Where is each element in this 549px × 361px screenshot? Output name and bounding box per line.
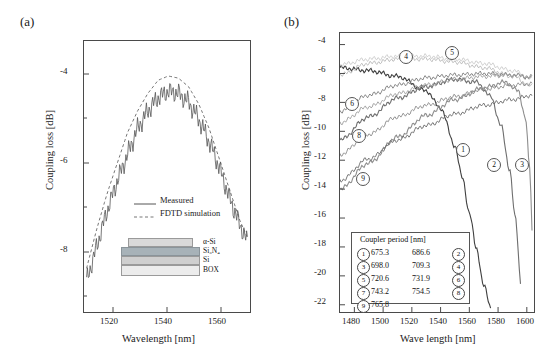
panel-b-curve-8 [340, 82, 532, 156]
legend-marker-9: 9 [357, 300, 370, 313]
panel-a-ytick-0: -4 [60, 66, 68, 76]
panel-a-xlabel: Wavelength [nm] [122, 333, 195, 344]
legend-label-measured: Measured [160, 195, 194, 205]
curve-marker-6: 6 [345, 97, 359, 111]
legend-value-2: 686.6 [412, 248, 430, 257]
panel-b-xlabel: Wave length [nm] [400, 333, 476, 344]
legend-label-fdtd: FDTD simulation [160, 208, 220, 218]
legend-value-5: 720.6 [371, 274, 389, 283]
panel-b-ylabel: Coupling loss [dB] [300, 55, 311, 245]
legend-marker-5: 5 [357, 274, 370, 287]
panel-b-ytick-5: -14 [314, 180, 326, 190]
curve-marker-1: 1 [456, 143, 470, 157]
figure-root: (a) Coupling loss [dB] -4 -6 -8 152 [0, 0, 549, 361]
curve-marker-8: 8 [352, 129, 366, 143]
legend-value-3: 698.0 [371, 261, 389, 270]
legend-value-4: 709.3 [412, 261, 430, 270]
legend-marker-2: 2 [452, 248, 465, 261]
stack-label-si: Si [203, 255, 209, 264]
stack-layer-a-si [128, 238, 193, 247]
legend-marker-8: 8 [452, 287, 465, 300]
panel-b-ytick-6: -16 [314, 209, 326, 219]
panel-b-ytick-4: -12 [314, 151, 326, 161]
legend-value-7: 743.2 [371, 287, 389, 296]
panel-a-xtick-0: 1520 [100, 316, 118, 326]
panel-b-ytick-8: -20 [314, 267, 326, 277]
stack-label-a-si: α-Si [203, 237, 216, 246]
panel-a-xtick-2: 1560 [208, 316, 226, 326]
panel-b-xtick-5: 1580 [487, 316, 505, 326]
stack-label-si3n4: Si₃N₄ [203, 246, 220, 255]
legend-value-9: 765.8 [371, 300, 389, 309]
panel-b-ytick-2: -8 [318, 93, 326, 103]
panel-b-ytick-7: -18 [314, 238, 326, 248]
curve-marker-3: 3 [515, 158, 529, 172]
legend-value-6: 731.9 [412, 274, 430, 283]
stack-label-box: BOX [203, 265, 219, 274]
legend-value-1: 675.3 [371, 248, 389, 257]
stack-layer-si3n4 [121, 247, 200, 256]
panel-a-xtick-1: 1540 [154, 316, 172, 326]
curve-marker-9: 9 [356, 172, 370, 186]
panel-a-ylabel: Coupling loss [dB] [44, 70, 55, 230]
panel-b-ytick-9: -22 [314, 296, 326, 306]
curve-marker-4: 4 [399, 50, 413, 64]
legend-marker-3: 3 [357, 261, 370, 274]
panel-b-ytick-3: -10 [314, 122, 326, 132]
panel-a-ytick-2: -8 [60, 244, 68, 254]
stack-layer-box [121, 265, 200, 276]
legend-marker-6: 6 [452, 274, 465, 287]
panel-b-xtick-1: 1500 [371, 316, 389, 326]
panel-b-xtick-4: 1560 [458, 316, 476, 326]
stack-layer-si [121, 256, 200, 265]
curve-marker-2: 2 [487, 158, 501, 172]
panel-b-ytick-0: -4 [318, 35, 326, 45]
panel-a-label: (a) [20, 14, 34, 30]
panel-b-xtick-2: 1520 [400, 316, 418, 326]
legend-line-measured [134, 200, 156, 208]
panel-b-xtick-6: 1600 [516, 316, 534, 326]
panel-b-ytick-1: -6 [318, 64, 326, 74]
panel-b-label: (b) [284, 14, 299, 30]
curve-marker-5: 5 [445, 46, 459, 60]
legend-marker-1: 1 [357, 248, 370, 261]
panel-b-xtick-0: 1480 [342, 316, 360, 326]
legend-line-fdtd [134, 213, 156, 221]
legend-marker-4: 4 [452, 261, 465, 274]
panel-a-ytick-1: -6 [60, 155, 68, 165]
legend-marker-7: 7 [357, 287, 370, 300]
legend-title: Coupler period [nm] [360, 235, 426, 244]
panel-b-xtick-3: 1540 [429, 316, 447, 326]
legend-value-8: 754.5 [412, 287, 430, 296]
